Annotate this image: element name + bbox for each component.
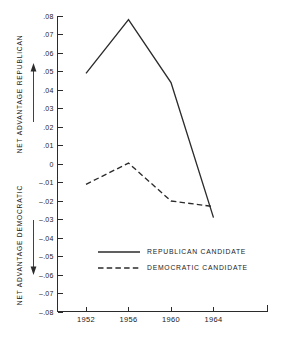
- line-chart: .08.07.06.05.04.03.02.010–.01–.02–.03–.0…: [0, 0, 295, 341]
- y-tick-label: –.01: [39, 179, 53, 186]
- legend-label-democratic: DEMOCRATIC CANDIDATE: [147, 264, 248, 271]
- series-line-republican: [86, 20, 214, 218]
- y-tick-label: –.07: [39, 290, 53, 297]
- chart-figure: .08.07.06.05.04.03.02.010–.01–.02–.03–.0…: [0, 0, 295, 341]
- y-tick-group: .08.07.06.05.04.03.02.010–.01–.02–.03–.0…: [39, 13, 62, 316]
- y-tick-label: .01: [43, 142, 53, 149]
- x-tick-label: 1964: [205, 315, 223, 324]
- y-tick-label: –.05: [39, 253, 53, 260]
- x-tick-label: 1960: [162, 315, 180, 324]
- y-tick-label: .07: [43, 31, 53, 38]
- x-tick-group: 1952195619601964: [77, 307, 222, 325]
- y-tick-label: .08: [43, 13, 53, 20]
- y-tick-label: –.06: [39, 272, 53, 279]
- series-line-democratic: [86, 163, 214, 206]
- y-tick-label: –.02: [39, 198, 53, 205]
- legend-label-republican: REPUBLICAN CANDIDATE: [147, 248, 246, 255]
- y-tick-label: .06: [43, 50, 53, 57]
- x-tick-label: 1956: [120, 315, 138, 324]
- y-tick-label: –.03: [39, 216, 53, 223]
- series-group: [86, 20, 214, 218]
- y-tick-label: .03: [43, 105, 53, 112]
- y-tick-label: –.04: [39, 235, 53, 242]
- y-tick-label: –.08: [39, 309, 53, 316]
- down-arrow-head: [31, 267, 37, 276]
- axis-title-republican-group: NET ADVANTAGE REPUBLICAN: [16, 35, 36, 154]
- up-arrow-head: [31, 63, 37, 72]
- y-tick-label: .05: [43, 68, 53, 75]
- chart-legend: REPUBLICAN CANDIDATEDEMOCRATIC CANDIDATE: [98, 248, 248, 271]
- axis-title-republican: NET ADVANTAGE REPUBLICAN: [16, 35, 23, 154]
- y-tick-label: .04: [43, 87, 53, 94]
- x-tick-label: 1952: [77, 315, 95, 324]
- y-tick-label: 0: [49, 161, 53, 168]
- axis-title-democratic: NET ADVANTAGE DEMOCRATIC: [16, 185, 23, 305]
- y-tick-label: .02: [43, 124, 53, 131]
- axis-title-democratic-group: NET ADVANTAGE DEMOCRATIC: [16, 185, 36, 305]
